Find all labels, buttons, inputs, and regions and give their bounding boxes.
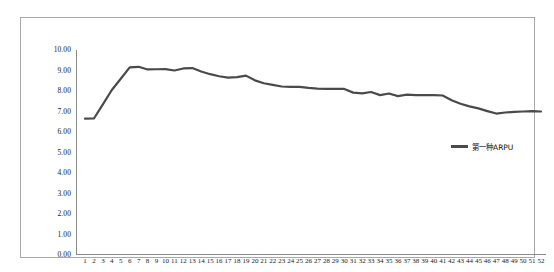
x-axis-tick-label: 15 <box>207 258 214 265</box>
y-axis-tick-label: 9.00 <box>57 67 71 75</box>
x-axis-tick-label: 18 <box>234 258 241 265</box>
x-axis-tick-label: 48 <box>502 258 509 265</box>
x-axis-tick-label: 23 <box>278 258 285 265</box>
chart-svg <box>76 50 546 255</box>
x-axis-tick-label: 49 <box>511 258 518 265</box>
y-axis-tick-label: 6.00 <box>57 128 71 136</box>
x-axis-tick-label: 43 <box>457 258 464 265</box>
x-axis-tick-label: 10 <box>162 258 169 265</box>
x-axis-tick-label: 25 <box>296 258 303 265</box>
chart-frame: 0.001.002.003.004.005.006.007.008.009.00… <box>20 17 535 258</box>
axis-lines <box>76 50 546 255</box>
x-axis-tick-label: 20 <box>251 258 258 265</box>
x-axis-tick-label: 14 <box>198 258 205 265</box>
x-axis-tick-label: 5 <box>119 258 123 265</box>
x-axis-tick-label: 31 <box>350 258 357 265</box>
chart-screenshot: 0.001.002.003.004.005.006.007.008.009.00… <box>0 0 554 272</box>
y-axis-tick-label: 0.00 <box>57 251 71 259</box>
legend-line-swatch-icon <box>451 145 468 148</box>
x-axis-tick-label: 22 <box>269 258 276 265</box>
x-axis-tick-label: 29 <box>332 258 339 265</box>
x-axis-tick-label: 52 <box>538 258 545 265</box>
x-axis-tick-label: 47 <box>493 258 500 265</box>
x-axis-tick-label: 46 <box>484 258 491 265</box>
x-axis-tick-label: 16 <box>216 258 223 265</box>
x-axis-tick-label: 19 <box>242 258 249 265</box>
y-axis-tick-label: 4.00 <box>57 169 71 177</box>
y-axis-tick-label: 7.00 <box>57 108 71 116</box>
x-axis-tick-label: 26 <box>305 258 312 265</box>
x-axis-tick-label: 7 <box>137 258 141 265</box>
x-axis-tick-label: 21 <box>260 258 267 265</box>
x-axis-tick-label: 33 <box>368 258 375 265</box>
x-axis-tick-label: 51 <box>529 258 536 265</box>
x-axis-tick-label: 2 <box>92 258 96 265</box>
x-axis-tick-label: 27 <box>314 258 321 265</box>
x-axis-tick-label: 38 <box>412 258 419 265</box>
x-axis-tick-label: 9 <box>155 258 159 265</box>
x-axis-tick-label: 24 <box>287 258 294 265</box>
x-axis-tick-label: 30 <box>341 258 348 265</box>
x-axis-tick-label: 40 <box>430 258 437 265</box>
y-axis-tick-label: 2.00 <box>57 210 71 218</box>
x-axis-tick-label: 34 <box>377 258 384 265</box>
x-axis-tick-label: 35 <box>386 258 393 265</box>
x-axis-tick-label: 13 <box>189 258 196 265</box>
x-axis-tick-label: 36 <box>394 258 401 265</box>
x-axis-tick-label: 50 <box>520 258 527 265</box>
x-axis-tick-label: 44 <box>466 258 473 265</box>
x-axis-tick-label: 42 <box>448 258 455 265</box>
legend-entry-label: 第一种ARPU <box>472 141 513 152</box>
y-axis-labels: 0.001.002.003.004.005.006.007.008.009.00… <box>21 50 71 255</box>
data-series-group <box>85 67 541 119</box>
x-axis-tick-label: 17 <box>225 258 232 265</box>
y-axis-tick-label: 10.00 <box>54 46 71 54</box>
chart-legend: 第一种ARPU <box>451 141 513 152</box>
x-axis-tick-label: 3 <box>101 258 105 265</box>
plot-area <box>76 50 546 255</box>
x-axis-tick-label: 28 <box>323 258 330 265</box>
x-axis-tick-label: 8 <box>146 258 150 265</box>
x-axis-tick-label: 32 <box>359 258 366 265</box>
x-axis-tick-label: 4 <box>110 258 114 265</box>
x-axis-tick-label: 6 <box>128 258 132 265</box>
x-axis-tick-label: 39 <box>421 258 428 265</box>
x-axis-tick-label: 11 <box>171 258 178 265</box>
x-axis-labels: 1234567891011121314151617181920212223242… <box>76 258 546 272</box>
x-axis-tick-label: 1 <box>83 258 87 265</box>
y-axis-tick-label: 3.00 <box>57 190 71 198</box>
data-series-line <box>85 67 541 119</box>
y-axis-tick-label: 1.00 <box>57 231 71 239</box>
x-axis-tick-label: 37 <box>403 258 410 265</box>
x-axis-tick-label: 12 <box>180 258 187 265</box>
y-axis-tick-label: 5.00 <box>57 149 71 157</box>
x-axis-tick-label: 45 <box>475 258 482 265</box>
y-axis-tick-label: 8.00 <box>57 87 71 95</box>
x-axis-tick-label: 41 <box>439 258 446 265</box>
